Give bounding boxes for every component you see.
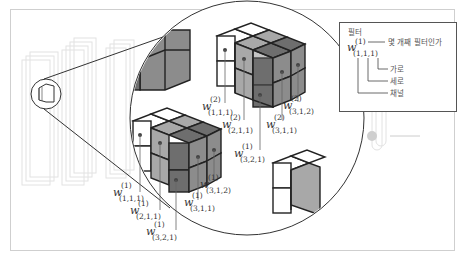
svg-text:(3,2,1): (3,2,1) [240, 155, 265, 164]
svg-text:(2): (2) [230, 113, 241, 122]
legend-annotation-height: 세로 [390, 77, 404, 86]
legend-annotation-channel: 채널 [390, 88, 404, 98]
svg-text:(3,1,2): (3,1,2) [206, 186, 231, 195]
svg-text:(2): (2) [291, 94, 302, 103]
faint-node-icon [367, 131, 377, 141]
svg-text:(2,1,1): (2,1,1) [228, 126, 253, 135]
svg-text:(2): (2) [210, 95, 221, 104]
svg-text:(3,2,1): (3,2,1) [152, 233, 177, 242]
svg-text:(2): (2) [274, 113, 285, 122]
svg-text:(1): (1) [192, 191, 203, 200]
svg-text:(3,1,1): (3,1,1) [190, 204, 215, 213]
svg-text:(1): (1) [138, 199, 149, 208]
legend-superscript: (1) [355, 37, 366, 46]
legend-annotation-filter-index: 몇 개째 필터인가 [388, 37, 442, 47]
legend-title: 필터 [348, 27, 362, 37]
svg-text:(1): (1) [121, 181, 132, 190]
partial-cube-bottom-right [273, 150, 325, 215]
legend-box: 필터 w (1) (1,1,1) 몇 개째 필터인가 가로 세로 채널 [339, 22, 457, 112]
bottom-cube-label-2: w (1) (3,2,1) [146, 220, 177, 242]
svg-text:(3,1,1): (3,1,1) [272, 126, 297, 135]
legend-annotation-width: 가로 [390, 65, 404, 74]
legend-subscript: (1,1,1) [353, 49, 378, 58]
svg-text:(1): (1) [208, 173, 219, 182]
svg-text:(1): (1) [242, 142, 253, 151]
svg-text:(1): (1) [154, 220, 165, 229]
svg-text:(3,1,2): (3,1,2) [289, 107, 314, 116]
